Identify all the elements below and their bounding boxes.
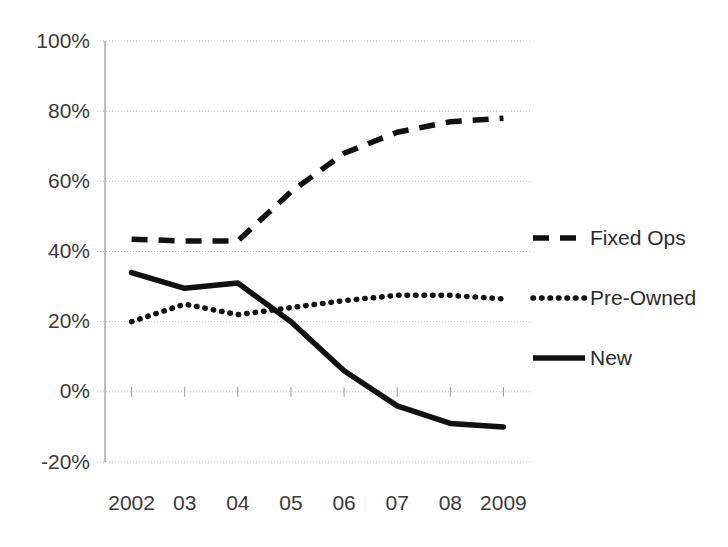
y-tick-label: 60% — [48, 169, 90, 192]
gridlines-group — [97, 41, 532, 462]
x-tick-label: 05 — [279, 491, 302, 514]
y-tick-label: -20% — [41, 450, 90, 473]
x-tick-label: 04 — [226, 491, 250, 514]
series-group — [132, 118, 504, 427]
x-tick-label: 06 — [332, 491, 355, 514]
x-axis-tick-labels: 20020304050607082009 — [108, 491, 527, 514]
x-tick-label: 08 — [439, 491, 462, 514]
x-tick-label: 03 — [173, 491, 196, 514]
legend-label: New — [590, 346, 633, 369]
y-tick-label: 40% — [48, 239, 90, 262]
chart-container: 100%80%60%40%20%0%-20% 20020304050607082… — [0, 0, 728, 547]
x-tick-label: 2009 — [480, 491, 527, 514]
y-tick-label: 20% — [48, 309, 90, 332]
y-tick-label: 100% — [36, 29, 90, 52]
series-line-fixed-ops — [132, 118, 504, 241]
series-line-pre-owned — [132, 295, 504, 321]
chart-legend: Fixed OpsPre-OwnedNew — [533, 226, 696, 369]
x-tick-label: 2002 — [108, 491, 155, 514]
y-tick-label: 0% — [60, 379, 90, 402]
x-tick-label: 07 — [386, 491, 409, 514]
line-chart-plot: 100%80%60%40%20%0%-20% 20020304050607082… — [0, 0, 728, 547]
legend-label: Pre-Owned — [590, 286, 696, 309]
y-tick-label: 80% — [48, 99, 90, 122]
legend-label: Fixed Ops — [590, 226, 686, 249]
y-axis-tick-labels: 100%80%60%40%20%0%-20% — [36, 29, 90, 473]
